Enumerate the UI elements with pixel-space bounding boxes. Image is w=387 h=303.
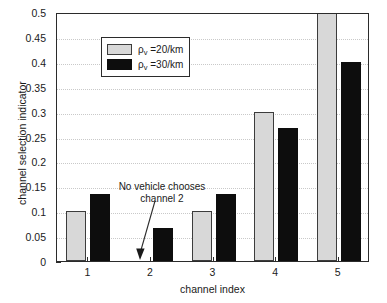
bar-channel-3-series-0 — [192, 211, 212, 261]
x-tick-label: 1 — [84, 266, 90, 278]
legend-swatch-low-density-icon — [107, 44, 132, 55]
y-tick-mark — [56, 262, 61, 263]
bar-channel-1-series-1 — [90, 194, 110, 261]
bar-channel-5-series-1 — [341, 62, 361, 261]
legend-rho-symbol-1: ρ — [138, 59, 144, 70]
legend-swatch-high-density-icon — [107, 59, 132, 70]
y-tick-label: 0.05 — [26, 232, 46, 243]
bar-channel-4-series-0 — [254, 112, 274, 261]
bar-channel-5-series-0 — [317, 13, 337, 261]
y-tick-label: 0.5 — [31, 8, 46, 19]
x-tick-label: 4 — [272, 266, 278, 278]
bar-chart-figure: channel selection indicator 00.050.10.15… — [0, 0, 387, 303]
legend-label-high-density: ρv =30/km — [138, 59, 183, 70]
y-tick-label: 0.2 — [31, 157, 46, 168]
x-tick-mark — [87, 257, 88, 262]
x-tick-mark — [275, 257, 276, 262]
x-axis-label: channel index — [56, 283, 369, 295]
x-tick-mark — [150, 257, 151, 262]
x-tick-mark — [338, 257, 339, 262]
y-tick-label: 0.3 — [31, 107, 46, 118]
legend-item-1: ρv =30/km — [107, 57, 183, 72]
legend-rho-symbol-0: ρ — [138, 44, 144, 55]
y-tick-label: 0.4 — [31, 57, 46, 68]
x-tick-label: 3 — [210, 266, 216, 278]
x-tick-mark — [213, 257, 214, 262]
bar-channel-4-series-1 — [278, 128, 298, 261]
y-tick-label: 0.25 — [26, 132, 46, 143]
y-tick-label: 0.15 — [26, 182, 46, 193]
y-tick-label: 0.45 — [26, 32, 46, 43]
legend-item-0: ρv =20/km — [107, 42, 183, 57]
x-axis-tick-labels: 12345 — [56, 266, 369, 282]
legend-rho-subscript-0: v — [144, 48, 148, 57]
bar-channel-1-series-0 — [66, 211, 86, 261]
x-tick-label: 5 — [335, 266, 341, 278]
bar-channel-3-series-1 — [216, 194, 236, 261]
legend-label-low-density: ρv =20/km — [138, 44, 183, 55]
y-tick-label: 0.35 — [26, 82, 46, 93]
bar-channel-2-series-1 — [153, 228, 173, 261]
legend-rho-value-1: =30/km — [147, 59, 183, 70]
y-tick-label: 0 — [40, 257, 46, 268]
legend-rho-subscript-1: v — [144, 63, 148, 72]
y-tick-label: 0.1 — [31, 207, 46, 218]
legend: ρv =20/km ρv =30/km — [101, 37, 190, 77]
x-tick-label: 2 — [147, 266, 153, 278]
y-axis-tick-labels: 00.050.10.150.20.250.30.350.40.450.5 — [0, 13, 52, 262]
legend-rho-value-0: =20/km — [147, 44, 183, 55]
